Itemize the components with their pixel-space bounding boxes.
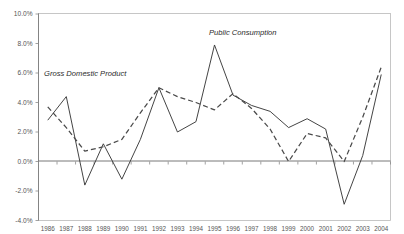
x-tick-label: 1987 bbox=[59, 225, 74, 232]
y-tick-label: 0.0% bbox=[17, 158, 32, 165]
y-tick-label: -2.0% bbox=[15, 187, 32, 194]
x-tick-label: 1991 bbox=[133, 225, 148, 232]
y-tick-label: -4.0% bbox=[15, 217, 32, 224]
x-tick-label: 1998 bbox=[263, 225, 278, 232]
x-tick-label: 2003 bbox=[356, 225, 371, 232]
chart-container: 10.0%8.0%6.0%4.0%2.0%0.0%-2.0%-4.0% 1986… bbox=[0, 0, 404, 234]
y-tick-label: 8.0% bbox=[17, 40, 32, 47]
x-tick-label: 2001 bbox=[319, 225, 334, 232]
x-tick-label: 1996 bbox=[226, 225, 241, 232]
x-tick-label: 1986 bbox=[41, 225, 56, 232]
y-tick-label: 10.0% bbox=[14, 10, 33, 17]
annotation-public-consumption: Public Consumption bbox=[209, 28, 277, 37]
x-tick-label: 1990 bbox=[115, 225, 130, 232]
y-axis-tick-labels: 10.0%8.0%6.0%4.0%2.0%0.0%-2.0%-4.0% bbox=[14, 10, 33, 224]
y-tick-label: 2.0% bbox=[17, 128, 32, 135]
x-tick-label: 1993 bbox=[170, 225, 185, 232]
x-tick-label: 1992 bbox=[152, 225, 167, 232]
x-tick-label: 1988 bbox=[78, 225, 93, 232]
x-axis-tick-labels: 1986198719881989199019911992199319941995… bbox=[41, 225, 389, 232]
line-chart: 10.0%8.0%6.0%4.0%2.0%0.0%-2.0%-4.0% 1986… bbox=[0, 0, 404, 234]
annotation-gross-domestic-product: Gross Domestic Product bbox=[44, 69, 127, 78]
x-tick-label: 1989 bbox=[96, 225, 111, 232]
x-tick-label: 2002 bbox=[337, 225, 352, 232]
x-tick-label: 1997 bbox=[245, 225, 260, 232]
x-tick-label: 1994 bbox=[189, 225, 204, 232]
x-tick-label: 2000 bbox=[300, 225, 315, 232]
y-tick-label: 4.0% bbox=[17, 99, 32, 106]
series-line-public-consumption bbox=[48, 67, 381, 161]
y-tick-label: 6.0% bbox=[17, 69, 32, 76]
x-tick-label: 2004 bbox=[374, 225, 389, 232]
x-tick-label: 1999 bbox=[282, 225, 297, 232]
x-tick-label: 1995 bbox=[207, 225, 222, 232]
x-axis-ticks bbox=[39, 162, 391, 165]
